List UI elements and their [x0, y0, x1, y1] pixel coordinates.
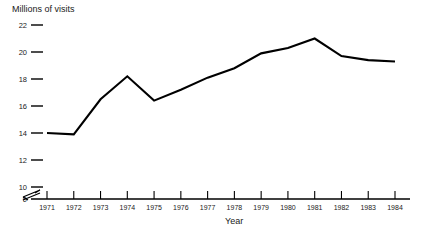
x-axis-tick-label: 1982 [334, 204, 350, 211]
line-chart: Millions of visits0101214161820221971197… [0, 0, 422, 230]
y-axis-title: Millions of visits [12, 4, 75, 14]
x-axis-tick-label: 1974 [120, 204, 136, 211]
x-axis-tick-label: 1972 [66, 204, 82, 211]
data-line-millions-of-visits [47, 39, 395, 135]
y-axis-tick-label: 10 [19, 183, 27, 192]
x-axis-tick-label: 1981 [307, 204, 323, 211]
x-axis-tick-label: 1976 [173, 204, 189, 211]
x-axis-tick-label: 1979 [253, 204, 269, 211]
x-axis-tick-label: 1971 [39, 204, 55, 211]
x-axis-tick-label: 1978 [227, 204, 243, 211]
x-axis-tick-label: 1973 [93, 204, 109, 211]
x-axis-tick-label: 1980 [280, 204, 296, 211]
x-axis-tick-label: 1983 [360, 204, 376, 211]
y-axis-tick-label: 14 [19, 129, 27, 138]
y-axis-tick-label: 18 [19, 75, 27, 84]
x-axis-tick-label: 1975 [146, 204, 162, 211]
y-axis-tick-label: 12 [19, 156, 27, 165]
y-axis-tick-label: 22 [19, 21, 27, 30]
y-axis-tick-label: 20 [19, 48, 27, 57]
x-axis-title: Year [225, 216, 243, 226]
x-axis-tick-label: 1977 [200, 204, 216, 211]
chart-container: Millions of visits0101214161820221971197… [0, 0, 422, 230]
x-axis-tick-label: 1984 [387, 204, 403, 211]
y-axis-tick-label: 16 [19, 102, 27, 111]
